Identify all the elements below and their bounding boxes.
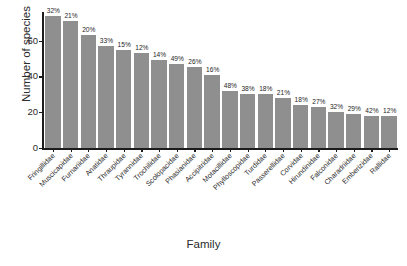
x-tick-mark [53, 148, 54, 152]
bar-value-label: 12% [135, 45, 148, 52]
bar-slot: 38% [239, 12, 257, 148]
bar-value-label: 32% [330, 104, 343, 111]
bar-value-label: 14% [153, 52, 166, 59]
bar[interactable] [45, 16, 60, 148]
x-tick-mark [106, 148, 107, 152]
bar-slot: 32% [44, 12, 62, 148]
bar-value-label: 18% [259, 86, 272, 93]
x-tick-mark [212, 148, 213, 152]
bar[interactable] [116, 50, 131, 148]
x-tick-mark [318, 148, 319, 152]
x-tick-mark [283, 148, 284, 152]
bar-value-label: 27% [312, 99, 325, 106]
x-tick-mark [141, 148, 142, 152]
bar-slot: 18% [256, 12, 274, 148]
bar-value-label: 15% [118, 42, 131, 49]
bar-slot: 26% [186, 12, 204, 148]
y-tick-mark [39, 148, 43, 149]
x-tick-mark [230, 148, 231, 152]
x-tick-mark [71, 148, 72, 152]
y-tick-mark [39, 76, 43, 77]
bar-slot: 18% [292, 12, 310, 148]
bar[interactable] [204, 75, 219, 148]
bar-slot: 14% [150, 12, 168, 148]
y-tick-label: 40 [20, 71, 38, 81]
bar-slot: 12% [380, 12, 398, 148]
bar-value-label: 20% [82, 27, 95, 34]
x-tick-mark [371, 148, 372, 152]
bar[interactable] [187, 67, 202, 148]
bar-value-label: 42% [365, 108, 378, 115]
bar-slot: 49% [168, 12, 186, 148]
bar-slot: 15% [115, 12, 133, 148]
bar[interactable] [328, 112, 343, 148]
y-tick-label: 0 [20, 143, 38, 153]
bar[interactable] [151, 60, 166, 148]
x-tick-mark [265, 148, 266, 152]
x-tick-mark [389, 148, 390, 152]
x-tick-mark [336, 148, 337, 152]
x-axis-labels: FringillidaeMuscicapidaeFurnariidaeAnati… [44, 152, 398, 224]
y-tick-mark [39, 112, 43, 113]
bar[interactable] [169, 64, 184, 148]
bar-value-label: 16% [206, 67, 219, 74]
x-tick-mark [124, 148, 125, 152]
bar[interactable] [63, 21, 78, 148]
bar-value-label: 49% [171, 56, 184, 63]
bar-slot: 42% [363, 12, 381, 148]
bar[interactable] [258, 94, 273, 148]
bar-value-label: 32% [47, 8, 60, 15]
plot-area: 0204060 32%21%20%33%15%12%14%49%26%16%48… [42, 12, 398, 148]
bar-value-label: 33% [100, 38, 113, 45]
bar[interactable] [222, 91, 237, 148]
x-tick-mark [88, 148, 89, 152]
bar[interactable] [346, 114, 361, 148]
bar-slot: 29% [345, 12, 363, 148]
x-axis-title: Family [0, 238, 407, 250]
x-tick-mark [159, 148, 160, 152]
bar-value-label: 26% [188, 59, 201, 66]
bar[interactable] [381, 116, 396, 148]
y-tick-label: 20 [20, 107, 38, 117]
bar-value-label: 21% [64, 13, 77, 20]
bar-slot: 12% [133, 12, 151, 148]
x-tick-mark [248, 148, 249, 152]
x-tick-mark [301, 148, 302, 152]
bar-value-label: 48% [224, 83, 237, 90]
bar[interactable] [364, 116, 379, 148]
x-tick-mark [194, 148, 195, 152]
bar-slot: 20% [79, 12, 97, 148]
bar-slot: 33% [97, 12, 115, 148]
x-tick-mark [354, 148, 355, 152]
bar[interactable] [134, 53, 149, 148]
bar[interactable] [311, 107, 326, 148]
y-tick-label: 60 [20, 36, 38, 46]
bar[interactable] [81, 35, 96, 148]
bar-slot: 21% [62, 12, 80, 148]
x-tick-mark [177, 148, 178, 152]
bar-slot: 32% [327, 12, 345, 148]
bar-value-label: 18% [295, 97, 308, 104]
bar-slot: 27% [310, 12, 328, 148]
bar-slot: 21% [274, 12, 292, 148]
bar[interactable] [275, 98, 290, 148]
bar-value-label: 12% [383, 108, 396, 115]
bar[interactable] [293, 105, 308, 148]
bar[interactable] [98, 46, 113, 148]
bar-value-label: 29% [348, 106, 361, 113]
bar-slot: 48% [221, 12, 239, 148]
bar[interactable] [240, 94, 255, 148]
y-tick-mark [39, 41, 43, 42]
bar-value-label: 21% [277, 90, 290, 97]
bars-group: 32%21%20%33%15%12%14%49%26%16%48%38%18%2… [44, 12, 398, 148]
bar-value-label: 38% [241, 86, 254, 93]
bar-chart-figure: Number of species 0204060 32%21%20%33%15… [0, 0, 407, 266]
bar-slot: 16% [203, 12, 221, 148]
